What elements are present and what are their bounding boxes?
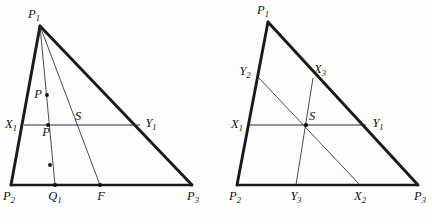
left-edge-P1P3 <box>40 26 192 185</box>
right-label-X2: X2 <box>353 189 367 205</box>
right-edge-P1P3 <box>268 22 418 185</box>
left-point-F <box>98 183 102 187</box>
right-label-P3: P3 <box>413 189 426 205</box>
right-label-S: S <box>309 109 316 123</box>
left-point-Q1 <box>53 183 57 187</box>
geometry-canvas: P1 P2 P3 X1 Y1 S Q1 F P P P1 P2 P3 X1 Y1 <box>0 0 432 224</box>
left-cevian-P1-F <box>40 26 100 185</box>
right-triangle-figure: P1 P2 P3 X1 Y1 Y2 X3 Y3 X2 S <box>228 3 426 205</box>
left-label-P-lower: P <box>41 125 50 139</box>
left-cevian-P1-Q1 <box>40 26 55 185</box>
left-label-P-upper: P <box>33 87 42 101</box>
left-point-P-upper <box>45 93 49 97</box>
left-triangle-figure: P1 P2 P3 X1 Y1 S Q1 F P P <box>2 7 199 205</box>
right-chord-Y2-X2 <box>258 77 360 185</box>
left-label-F: F <box>96 189 105 203</box>
left-label-P2: P2 <box>2 189 16 205</box>
figure-root: P1 P2 P3 X1 Y1 S Q1 F P P P1 P2 P3 X1 Y1 <box>0 0 432 224</box>
right-label-Y3: Y3 <box>290 189 301 205</box>
right-label-P1: P1 <box>256 3 269 19</box>
right-label-Y1: Y1 <box>372 116 383 132</box>
right-chord-X3-Y3 <box>296 78 313 185</box>
right-point-S <box>304 123 308 127</box>
left-label-P1: P1 <box>27 7 40 23</box>
left-label-Y1: Y1 <box>145 116 156 132</box>
right-edge-P1P2 <box>237 22 268 185</box>
right-label-X1: X1 <box>230 117 243 133</box>
left-edge-P1P2 <box>11 26 40 185</box>
left-label-Q1: Q1 <box>48 189 61 205</box>
left-label-X1: X1 <box>4 117 17 133</box>
right-label-Y2: Y2 <box>239 64 251 80</box>
left-point-mid-marker <box>48 163 52 167</box>
right-label-P2: P2 <box>228 189 242 205</box>
left-label-S: S <box>75 109 82 123</box>
left-label-P3: P3 <box>186 189 199 205</box>
right-label-X3: X3 <box>313 62 326 78</box>
